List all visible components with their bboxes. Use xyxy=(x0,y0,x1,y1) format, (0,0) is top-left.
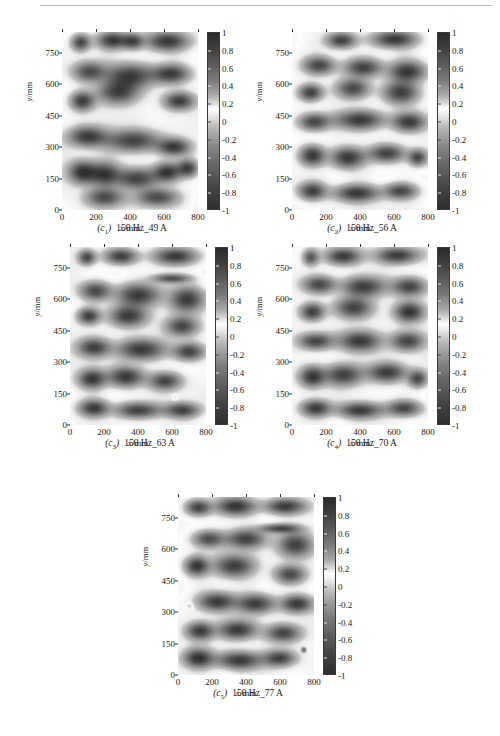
colorbar-tick-mark-c3-9 xyxy=(216,408,219,409)
colorbar-tick-mark-c2-9 xyxy=(438,193,441,194)
heatmap-image-c3 xyxy=(70,247,206,425)
colorbar-c3: 10.80.60.40.20-0.2-0.4-0.6-0.8-1 xyxy=(215,247,228,425)
colorbar-tick-mark-c5-9 xyxy=(324,658,327,659)
colorbar-tick-mark-c3-1 xyxy=(216,265,219,266)
heatmap-canvas-c1 xyxy=(62,32,198,210)
ytick-mark-c2-5 xyxy=(289,52,292,53)
colorbar-c5: 10.80.60.40.20-0.2-0.4-0.6-0.8-1 xyxy=(323,497,336,675)
colorbar-tick-mark-c4-5 xyxy=(438,337,441,338)
xtick-mark-c4-2 xyxy=(360,244,361,247)
ytick-mark-c1-5 xyxy=(59,52,62,53)
colorbar-tick-mark-c5-1 xyxy=(324,515,327,516)
xtick-mark-c4-1 xyxy=(326,244,327,247)
colorbar-tick-label-c2-6: -0.2 xyxy=(452,135,466,144)
panel-caption-text-c3: 150 Hz_63 A xyxy=(124,438,175,448)
xtick-mark-c2-1 xyxy=(326,29,327,32)
panel-caption-text-c1: 150 Hz_49 A xyxy=(116,223,167,233)
colorbar-tick-label-c5-2: 0.6 xyxy=(338,529,349,538)
panel-label-close-c3: ) xyxy=(116,438,119,448)
colorbar-tick-label-c1-3: 0.4 xyxy=(222,82,233,91)
ytick-mark-c3-0 xyxy=(67,425,70,426)
xtick-label-c3-2: 400 xyxy=(131,428,145,437)
figure-modal-patterns: y/mm01503004506007500200400600800x/mm10.… xyxy=(0,0,500,736)
colorbar-tick-mark-c4-8 xyxy=(438,390,441,391)
xtick-label-c4-3: 600 xyxy=(387,428,401,437)
panel-caption-c5: (c5)150 Hz_77 A xyxy=(138,688,358,701)
plot-area-c2: 01503004506007500200400600800x/mm xyxy=(292,32,428,210)
xtick-mark-c2-2 xyxy=(360,29,361,32)
xtick-mark-c2-3 xyxy=(394,29,395,32)
colorbar-tick-label-c3-3: 0.4 xyxy=(230,297,241,306)
xtick-mark-c5-4 xyxy=(314,494,315,497)
ytick-label-c3-1: 150 xyxy=(54,389,68,398)
xtick-label-c5-0: 0 xyxy=(176,678,181,687)
ytick-label-c2-1: 150 xyxy=(276,174,290,183)
colorbar-tick-label-c4-9: -0.8 xyxy=(452,404,466,413)
ytick-label-c2-3: 450 xyxy=(276,111,290,120)
xtick-label-c4-0: 0 xyxy=(290,428,295,437)
xtick-label-c1-4: 800 xyxy=(191,213,205,222)
heatmap-panel-c1: y/mm01503004506007500200400600800x/mm10.… xyxy=(22,22,242,237)
ytick-mark-c1-1 xyxy=(59,178,62,179)
xtick-mark-c3-1 xyxy=(104,244,105,247)
y-axis-var-c1: y xyxy=(24,98,34,102)
panel-label-close-c1: ) xyxy=(108,223,111,233)
colorbar-tick-label-c2-1: 0.8 xyxy=(452,46,463,55)
colorbar-tick-label-c3-5: 0 xyxy=(230,333,235,342)
colorbar-tick-label-c4-4: 0.2 xyxy=(452,315,463,324)
y-axis-unit-c3: /mm xyxy=(32,297,42,313)
xtick-mark-c4-3 xyxy=(394,244,395,247)
y-axis-unit-c5: /mm xyxy=(140,547,150,563)
ytick-mark-c5-0 xyxy=(175,675,178,676)
colorbar-tick-mark-c2-1 xyxy=(438,50,441,51)
colorbar-tick-mark-c2-2 xyxy=(438,68,441,69)
ytick-mark-c2-3 xyxy=(289,115,292,116)
y-axis-unit-c2: /mm xyxy=(254,82,264,98)
colorbar-tick-label-c4-6: -0.2 xyxy=(452,350,466,359)
colorbar-tick-mark-c2-3 xyxy=(438,86,441,87)
panel-label-open-c1: (c xyxy=(97,223,104,233)
colorbar-tick-label-c3-7: -0.4 xyxy=(230,368,244,377)
ytick-label-c2-2: 300 xyxy=(276,143,290,152)
heatmap-panel-c5: y/mm01503004506007500200400600800x/mm10.… xyxy=(138,487,358,702)
heatmap-image-c5 xyxy=(178,497,314,675)
colorbar-tick-label-c5-3: 0.4 xyxy=(338,547,349,556)
ytick-mark-c3-3 xyxy=(67,330,70,331)
plot-area-c1: 01503004506007500200400600800x/mm xyxy=(62,32,198,210)
ytick-mark-c1-3 xyxy=(59,115,62,116)
plot-area-c4: 01503004506007500200400600800x/mm xyxy=(292,247,428,425)
colorbar-tick-label-c2-2: 0.6 xyxy=(452,64,463,73)
xtick-mark-c4-4 xyxy=(428,244,429,247)
colorbar-tick-label-c3-4: 0.2 xyxy=(230,315,241,324)
ytick-label-c4-4: 600 xyxy=(276,295,290,304)
heatmap-image-c2 xyxy=(292,32,428,210)
colorbar-tick-label-c2-5: 0 xyxy=(452,118,457,127)
colorbar-tick-mark-c2-8 xyxy=(438,175,441,176)
colorbar-tick-mark-c1-2 xyxy=(208,68,211,69)
ytick-label-c1-1: 150 xyxy=(46,174,60,183)
ytick-label-c3-4: 600 xyxy=(54,295,68,304)
colorbar-tick-mark-c3-7 xyxy=(216,372,219,373)
ytick-label-c5-3: 450 xyxy=(162,576,176,585)
ytick-mark-c4-5 xyxy=(289,267,292,268)
xtick-label-c3-4: 800 xyxy=(199,428,213,437)
heatmap-canvas-c5 xyxy=(178,497,314,675)
ytick-label-c5-2: 300 xyxy=(162,608,176,617)
colorbar-tick-mark-c1-9 xyxy=(208,193,211,194)
panel-label-c1: (c1) xyxy=(97,223,111,233)
xtick-label-c1-2: 400 xyxy=(123,213,137,222)
xtick-label-c2-3: 600 xyxy=(387,213,401,222)
colorbar-tick-mark-c4-3 xyxy=(438,301,441,302)
colorbar-tick-mark-c5-3 xyxy=(324,551,327,552)
panel-label-open-c4: (c xyxy=(327,438,334,448)
panel-caption-text-c4: 150 Hz_70 A xyxy=(346,438,397,448)
xtick-mark-c4-0 xyxy=(292,244,293,247)
ytick-mark-c2-0 xyxy=(289,210,292,211)
ytick-mark-c5-5 xyxy=(175,517,178,518)
colorbar-tick-label-c1-8: -0.6 xyxy=(222,171,236,180)
panel-label-close-c2: ) xyxy=(338,223,341,233)
colorbar-tick-mark-c2-5 xyxy=(438,122,441,123)
colorbar-tick-label-c2-7: -0.4 xyxy=(452,153,466,162)
ytick-label-c4-2: 300 xyxy=(276,358,290,367)
colorbar-tick-mark-c3-5 xyxy=(216,337,219,338)
